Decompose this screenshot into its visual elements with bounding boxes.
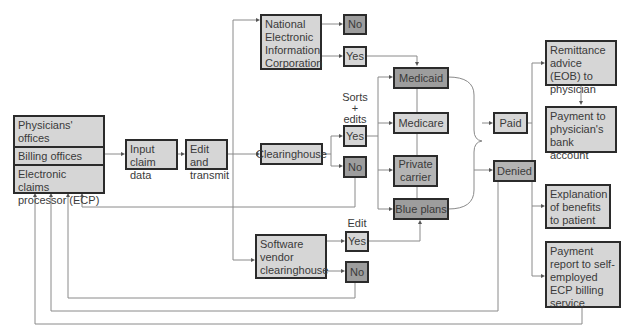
- clearing-no-box: No: [343, 156, 367, 178]
- source-ecp: Electronic claims processor (ECP): [15, 166, 103, 209]
- clearing-yes-box: Yes: [343, 125, 367, 147]
- neic-no-box: No: [343, 14, 367, 35]
- payer-private-carrier: Private carrier: [393, 155, 438, 187]
- software-vendor-box: Software vendor clearinghouse: [255, 234, 327, 279]
- payer-medicare: Medicare: [393, 112, 449, 134]
- source-physicians-offices: Physicians' offices: [15, 117, 103, 148]
- vendor-no-box: No: [345, 261, 369, 283]
- neic-box: National Electronic Information Corporat…: [260, 14, 322, 70]
- vendor-yes-box: Yes: [345, 231, 369, 252]
- sorts-edits-label: Sorts + edits: [340, 92, 370, 125]
- neic-yes-box: Yes: [343, 46, 367, 67]
- input-claim-data-box: Input claim data: [125, 139, 178, 170]
- sorts-line3: edits: [340, 114, 370, 125]
- outcome-remittance-advice: Remittance advice (EOB) to physician: [545, 40, 617, 86]
- outcome-payment-report: Payment report to self-employed ECP bill…: [545, 241, 621, 308]
- paid-box: Paid: [493, 112, 528, 134]
- outcome-explanation-benefits: Explanation of benefits to patient: [545, 184, 611, 229]
- edit-transmit-box: Edit and transmit: [185, 139, 228, 170]
- clearinghouse-box: Clearinghouse: [260, 143, 323, 165]
- payer-medicaid: Medicaid: [393, 67, 449, 89]
- source-billing-offices: Billing offices: [15, 148, 103, 166]
- payer-blue-plans: Blue plans: [393, 198, 449, 220]
- denied-box: Denied: [493, 160, 536, 182]
- edit-label: Edit: [343, 218, 371, 229]
- outcome-payment-bank: Payment to physician's bank account: [545, 106, 617, 153]
- claims-flow-diagram: Physicians' offices Billing offices Elec…: [0, 0, 635, 333]
- sources-stack: Physicians' offices Billing offices Elec…: [13, 115, 105, 194]
